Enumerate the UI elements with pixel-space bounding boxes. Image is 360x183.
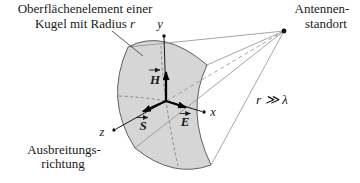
- far-field-condition-label: r ≫ λ: [256, 92, 288, 107]
- propagation-label-line1: Ausbreitungs-: [27, 142, 101, 157]
- diagram-canvas: Oberflächenelement einer Kugel mit Radiu…: [0, 0, 360, 183]
- surface-label-line2: Kugel mit Radius r: [35, 16, 136, 31]
- sight-line-top-left: [128, 31, 284, 47]
- antenna-label-line1: Antennen-: [295, 1, 350, 16]
- y-axis-label: y: [155, 17, 163, 31]
- z-axis-tip-dot: [112, 128, 115, 131]
- s-vector-label: S: [139, 118, 146, 133]
- x-axis-tip-dot: [202, 110, 205, 113]
- surface-label-line1: Oberflächenelement einer: [18, 1, 153, 16]
- sight-line-top-right: [207, 31, 284, 65]
- h-vector-label: H: [149, 72, 161, 87]
- e-vector-label: E: [180, 114, 190, 129]
- propagation-label-line2: richtung: [41, 156, 85, 171]
- y-axis-tip-dot: [162, 34, 165, 37]
- figure-spherical-surface-element: Oberflächenelement einer Kugel mit Radiu…: [0, 0, 360, 183]
- antenna-point-dot: [282, 29, 287, 34]
- antenna-label-line2: standort: [305, 16, 347, 31]
- x-axis-label: x: [209, 105, 216, 119]
- z-axis-label: z: [99, 125, 105, 139]
